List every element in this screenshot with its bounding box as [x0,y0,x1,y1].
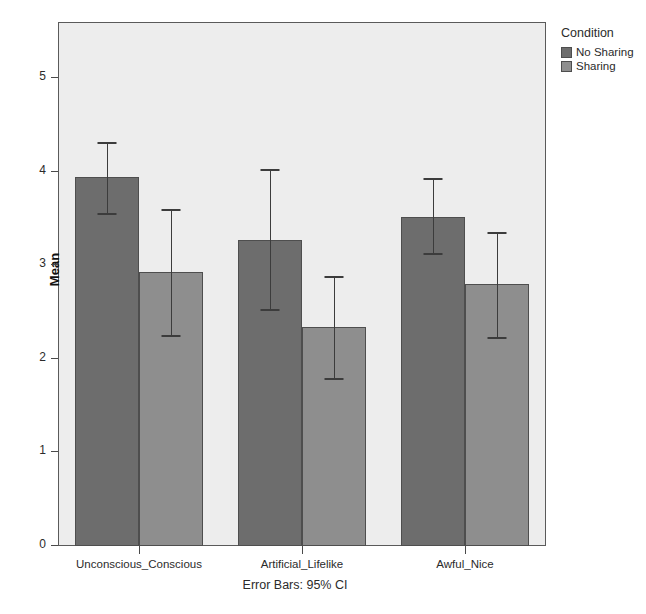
error-bar-cap-lower [325,378,344,380]
y-tick-mark [51,358,58,359]
y-tick-label: 1 [20,443,46,457]
x-tick-mark [302,546,303,554]
legend-label: Sharing [576,60,616,72]
y-tick-mark [51,171,58,172]
error-bar-line [107,142,108,213]
error-bar-line [334,276,335,378]
error-bar-line [270,169,271,309]
error-bars-note: Error Bars: 95% CI [0,578,590,592]
x-tick-mark [465,546,466,554]
error-bar-cap-upper [162,209,181,211]
bar [75,177,139,546]
error-bar-cap-upper [261,169,280,171]
legend-item: No Sharing [561,46,646,58]
y-tick-label: 2 [20,350,46,364]
y-tick-label: 4 [20,163,46,177]
error-bar-line [433,178,434,253]
legend-item: Sharing [561,60,646,72]
error-bar-line [171,209,172,335]
error-bar-cap-upper [98,142,117,144]
y-tick-mark [51,264,58,265]
legend-title: Condition [561,26,646,40]
error-bar-line [497,232,498,338]
error-bar-cap-lower [162,335,181,337]
error-bar-cap-upper [325,276,344,278]
legend-label: No Sharing [576,46,634,58]
legend-swatch [561,61,572,72]
legend-swatch [561,47,572,58]
error-bar-cap-upper [424,178,443,180]
y-tick-mark [51,545,58,546]
error-bar-cap-lower [98,213,117,215]
legend: Condition No SharingSharing [561,26,646,74]
y-axis-title: Mean [47,210,62,330]
x-tick-label: Unconscious_Conscious [76,558,202,570]
error-bar-cap-lower [488,337,507,339]
bar-chart: Mean 012345 Unconscious_ConsciousArtific… [0,0,646,614]
x-tick-label: Artificial_Lifelike [261,558,343,570]
error-bar-cap-lower [424,253,443,255]
legend-items: No SharingSharing [561,46,646,72]
error-bar-cap-lower [261,309,280,311]
y-tick-label: 5 [20,69,46,83]
x-tick-label: Awful_Nice [436,558,493,570]
y-tick-mark [51,451,58,452]
y-tick-label: 3 [20,256,46,270]
y-tick-label: 0 [20,537,46,551]
bar [401,217,465,546]
y-tick-mark [51,77,58,78]
error-bar-cap-upper [488,232,507,234]
x-tick-mark [139,546,140,554]
